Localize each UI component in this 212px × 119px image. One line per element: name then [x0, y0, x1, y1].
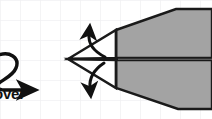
- fold-diagram: [0, 0, 212, 119]
- paper-upper-wing-shaded: [116, 9, 212, 58]
- turn-over-label: over: [0, 86, 25, 101]
- paper-lower-wing-shaded: [116, 60, 212, 109]
- origami-diagram-canvas: over: [0, 0, 212, 119]
